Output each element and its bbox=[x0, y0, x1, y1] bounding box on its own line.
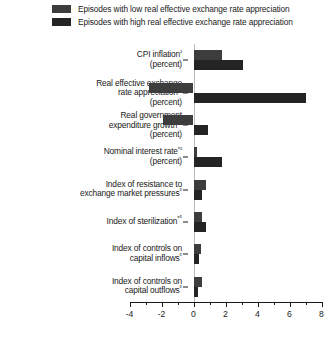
bar-high bbox=[194, 254, 200, 264]
bar-high bbox=[194, 190, 203, 200]
bar-row: Index of sterilization*⁵ bbox=[0, 206, 334, 238]
bar-low bbox=[149, 83, 194, 93]
bar-group bbox=[0, 206, 334, 238]
x-tick-minor bbox=[306, 302, 307, 305]
bar-group bbox=[0, 44, 334, 76]
bar-high bbox=[194, 157, 223, 167]
x-tick-label: -2 bbox=[158, 309, 166, 319]
x-tick-label: -4 bbox=[126, 309, 134, 319]
x-tick-minor bbox=[210, 302, 211, 305]
chart-page: Episodes with low real effective exchang… bbox=[0, 0, 334, 354]
chart-legend: Episodes with low real effective exchang… bbox=[52, 4, 330, 30]
bar-row: Real effective exchangerate appreciation… bbox=[0, 76, 334, 108]
bar-group bbox=[0, 238, 334, 270]
bar-group bbox=[0, 109, 334, 141]
bar-low bbox=[194, 277, 202, 287]
plot-area: CPI inflation²(percent)Real effective ex… bbox=[0, 44, 334, 310]
bar-high bbox=[194, 222, 207, 232]
x-tick-minor bbox=[146, 302, 147, 305]
x-tick-label: 2 bbox=[223, 309, 228, 319]
bar-group bbox=[0, 174, 334, 206]
bar-high bbox=[194, 93, 306, 103]
x-tick-major bbox=[130, 302, 131, 307]
bar-high bbox=[194, 125, 208, 135]
x-tick-label: 4 bbox=[255, 309, 260, 319]
bar-row: Real governmentexpenditure growth*⁴(perc… bbox=[0, 109, 334, 141]
legend-item-high: Episodes with high real effective exchan… bbox=[52, 17, 330, 27]
x-tick-label: 6 bbox=[287, 309, 292, 319]
bar-group bbox=[0, 271, 334, 303]
x-tick-label: 0 bbox=[191, 309, 196, 319]
bar-low bbox=[194, 50, 223, 60]
bar-rows: CPI inflation²(percent)Real effective ex… bbox=[0, 44, 334, 303]
bar-low bbox=[194, 244, 201, 254]
bar-low bbox=[194, 147, 197, 157]
bar-low bbox=[194, 212, 202, 222]
x-tick-major bbox=[194, 302, 195, 307]
bar-row: Nominal interest rate*²(percent) bbox=[0, 141, 334, 173]
x-axis: -4-202468 bbox=[0, 302, 334, 350]
bar-group bbox=[0, 76, 334, 108]
bar-high bbox=[194, 60, 244, 70]
legend-label-low: Episodes with low real effective exchang… bbox=[78, 4, 290, 14]
legend-swatch-low bbox=[52, 5, 71, 13]
legend-label-high: Episodes with high real effective exchan… bbox=[78, 17, 293, 27]
x-tick-minor bbox=[242, 302, 243, 305]
legend-swatch-high bbox=[52, 18, 71, 26]
bar-row: Index of controls oncapital inflows⁵ bbox=[0, 238, 334, 270]
x-tick-major bbox=[162, 302, 163, 307]
bar-row: CPI inflation²(percent) bbox=[0, 44, 334, 76]
bar-low bbox=[163, 115, 193, 125]
bar-row: Index of controls oncapital outflows⁵ bbox=[0, 271, 334, 303]
bar-low bbox=[194, 180, 206, 190]
bar-group bbox=[0, 141, 334, 173]
legend-item-low: Episodes with low real effective exchang… bbox=[52, 4, 330, 14]
x-tick-major bbox=[258, 302, 259, 307]
x-tick-major bbox=[322, 302, 323, 307]
x-tick-minor bbox=[274, 302, 275, 305]
x-tick-label: 8 bbox=[319, 309, 324, 319]
bar-row: Index of resistance toexchange market pr… bbox=[0, 174, 334, 206]
x-tick-major bbox=[290, 302, 291, 307]
bar-high bbox=[194, 287, 199, 297]
x-tick-major bbox=[226, 302, 227, 307]
x-tick-minor bbox=[178, 302, 179, 305]
